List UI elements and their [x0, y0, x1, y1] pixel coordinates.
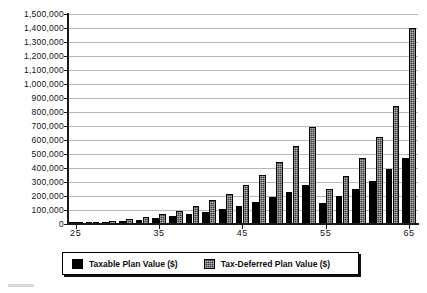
bar-taxable: [236, 206, 243, 224]
bar-tax-deferred: [343, 176, 350, 224]
y-axis-tick-label: 700,000: [0, 122, 64, 131]
bar-group: [369, 14, 386, 224]
bar-tax-deferred: [243, 185, 250, 224]
bar-tax-deferred: [226, 194, 233, 224]
y-axis-tick-label: 1,500,000: [0, 10, 64, 19]
y-axis-tick-label: 300,000: [0, 178, 64, 187]
legend-label-tax-deferred: Tax-Deferred Plan Value ($): [221, 259, 330, 269]
bar-tax-deferred: [209, 200, 216, 224]
legend-swatch-tax-deferred-icon: [204, 259, 215, 269]
x-axis-tick: [159, 225, 160, 229]
bar-group: [69, 14, 86, 224]
y-axis-tick-label: 200,000: [0, 192, 64, 201]
bar-group: [286, 14, 303, 224]
bar-group: [136, 14, 153, 224]
bar-group: [102, 14, 119, 224]
y-axis-tick-label: 1,400,000: [0, 24, 64, 33]
bar-tax-deferred: [376, 137, 383, 224]
y-axis-tick-label: 1,100,000: [0, 66, 64, 75]
plot-area: [68, 14, 418, 224]
bar-group: [219, 14, 236, 224]
bar-group: [402, 14, 419, 224]
x-axis-tick-label: 45: [227, 228, 257, 238]
bar-tax-deferred: [359, 158, 366, 224]
bar-chart: 1,500,0001,400,0001,300,0001,200,0001,10…: [0, 0, 427, 293]
bar-group: [352, 14, 369, 224]
y-axis-line: [67, 13, 69, 225]
chart-legend: Taxable Plan Value ($) Tax-Deferred Plan…: [62, 252, 359, 275]
bar-taxable: [369, 181, 376, 224]
bar-tax-deferred: [409, 28, 416, 224]
bar-group: [86, 14, 103, 224]
x-axis-tick: [76, 225, 77, 229]
legend-label-taxable: Taxable Plan Value ($): [89, 259, 178, 269]
bar-taxable: [219, 209, 226, 224]
y-axis-tick-label: 900,000: [0, 94, 64, 103]
bar-group: [186, 14, 203, 224]
bar-taxable: [302, 185, 309, 224]
bar-taxable: [352, 189, 359, 224]
x-axis-tick-label: 35: [144, 228, 174, 238]
x-axis-tick: [242, 225, 243, 229]
y-axis-tick-label: 600,000: [0, 136, 64, 145]
x-axis-tick-label: 25: [61, 228, 91, 238]
legend-item-taxable: Taxable Plan Value ($): [72, 259, 178, 269]
bar-taxable: [269, 197, 276, 224]
y-axis-tick-label: 500,000: [0, 150, 64, 159]
scan-artifact: [8, 284, 34, 287]
bar-taxable: [252, 202, 259, 224]
bar-group: [152, 14, 169, 224]
bar-group: [252, 14, 269, 224]
bar-group: [202, 14, 219, 224]
bar-group: [302, 14, 319, 224]
x-axis-tick-label: 55: [311, 228, 341, 238]
legend-swatch-taxable-icon: [72, 259, 83, 269]
y-axis-tick-label: 1,300,000: [0, 38, 64, 47]
bar-tax-deferred: [293, 146, 300, 224]
legend-item-tax-deferred: Tax-Deferred Plan Value ($): [204, 259, 330, 269]
bar-group: [336, 14, 353, 224]
bar-tax-deferred: [176, 211, 183, 224]
bar-group: [119, 14, 136, 224]
y-axis-labels: 1,500,0001,400,0001,300,0001,200,0001,10…: [0, 0, 64, 240]
bar-tax-deferred: [309, 127, 316, 224]
x-axis-tick-label: 65: [394, 228, 424, 238]
bar-tax-deferred: [193, 206, 200, 224]
bar-tax-deferred: [393, 106, 400, 224]
bar-tax-deferred: [326, 189, 333, 224]
bar-group: [269, 14, 286, 224]
bar-taxable: [336, 196, 343, 224]
x-axis-tick: [326, 225, 327, 229]
y-axis-tick-label: 1,000,000: [0, 80, 64, 89]
x-axis-tick: [409, 225, 410, 229]
bar-tax-deferred: [276, 162, 283, 224]
bar-group: [319, 14, 336, 224]
y-axis-tick-label: 800,000: [0, 108, 64, 117]
bar-group: [169, 14, 186, 224]
x-axis-labels: 2535455565: [0, 228, 427, 244]
bar-taxable: [402, 158, 409, 225]
y-axis-tick-label: 1,200,000: [0, 52, 64, 61]
bar-series-container: [68, 14, 418, 224]
y-axis-tick-label: 100,000: [0, 206, 64, 215]
bar-taxable: [286, 192, 293, 224]
bar-group: [236, 14, 253, 224]
bar-tax-deferred: [259, 175, 266, 224]
bar-group: [386, 14, 403, 224]
y-axis-tick-label: 400,000: [0, 164, 64, 173]
bar-taxable: [319, 203, 326, 224]
bar-taxable: [386, 169, 393, 224]
x-axis-line: [67, 223, 419, 225]
